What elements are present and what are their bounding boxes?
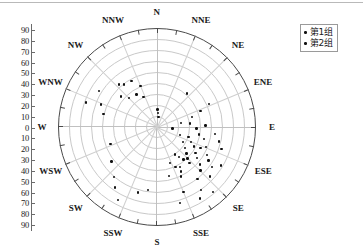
scatter-point: [174, 166, 176, 168]
compass-label-sw: SW: [69, 204, 83, 213]
radial-axis-tick-label: 20: [7, 102, 29, 111]
radial-axis-tick: [31, 63, 35, 64]
radial-axis-tick: [31, 30, 35, 31]
radial-axis-tick-label: 40: [7, 80, 29, 89]
plot-frame-top-border: [0, 2, 363, 3]
radial-axis-tick-label: 60: [7, 59, 29, 68]
scatter-point: [120, 95, 122, 97]
scatter-point: [185, 152, 187, 154]
scatter-point: [113, 176, 115, 178]
radial-axis-tick: [31, 41, 35, 42]
radial-axis-tick-label: 90: [7, 26, 29, 35]
scatter-point: [110, 160, 112, 162]
scatter-point: [130, 80, 132, 82]
radial-axis-tick: [31, 138, 35, 139]
scatter-point: [171, 127, 173, 129]
scatter-point: [174, 153, 176, 155]
legend-label: 第2组: [310, 39, 334, 48]
scatter-point: [203, 138, 205, 140]
scatter-point: [180, 170, 182, 172]
compass-label-e: E: [269, 123, 275, 132]
legend-marker-dot-icon: [304, 42, 307, 45]
polar-plot-area: [58, 28, 256, 226]
scatter-point: [196, 178, 198, 180]
scatter-point: [188, 162, 190, 164]
scatter-point: [207, 159, 209, 161]
compass-label-ene: ENE: [254, 78, 273, 87]
compass-label-se: SE: [233, 204, 244, 213]
scatter-point: [189, 122, 191, 124]
polar-rim-tick: [157, 28, 158, 33]
radial-axis-tick-label: 50: [7, 178, 29, 187]
compass-label-w: W: [38, 123, 47, 132]
legend-marker-dot-icon: [304, 31, 307, 34]
compass-label-nw: NW: [68, 41, 84, 50]
radial-axis-tick: [31, 214, 35, 215]
compass-label-ne: NE: [232, 41, 245, 50]
radial-axis-tick: [31, 160, 35, 161]
compass-label-s: S: [155, 238, 160, 247]
radial-axis-tick-label: 20: [7, 145, 29, 154]
radial-axis-tick-label: 30: [7, 91, 29, 100]
scatter-point: [180, 175, 182, 177]
compass-label-ssw: SSW: [103, 229, 122, 238]
scatter-point: [194, 152, 196, 154]
polar-grid-spoke: [156, 127, 157, 226]
scatter-point: [186, 157, 188, 159]
scatter-point: [195, 127, 197, 129]
compass-label-nne: NNE: [192, 16, 211, 25]
scatter-point: [182, 141, 184, 143]
radial-axis-tick: [31, 171, 35, 172]
radial-axis-tick-label: 60: [7, 189, 29, 198]
scatter-point: [114, 186, 116, 188]
radial-axis-tick-label: 90: [7, 221, 29, 230]
radial-axis-tick: [31, 149, 35, 150]
radial-axis-tick-label: 10: [7, 134, 29, 143]
polar-rim-tick: [156, 221, 157, 226]
polar-rim-tick: [58, 126, 63, 127]
compass-label-n: N: [154, 8, 161, 17]
scatter-point: [193, 145, 195, 147]
scatter-point: [128, 97, 130, 99]
radial-axis-tick: [31, 193, 35, 194]
radial-axis-tick-label: 50: [7, 69, 29, 78]
radial-axis-tick: [31, 106, 35, 107]
scatter-point: [204, 124, 206, 126]
radial-axis-tick: [31, 52, 35, 53]
radial-axis-tick: [31, 84, 35, 85]
radial-axis-tick: [31, 95, 35, 96]
radial-axis-tick: [31, 73, 35, 74]
scatter-point: [123, 83, 125, 85]
radial-axis-tick: [31, 182, 35, 183]
radial-axis-tick-label: 10: [7, 113, 29, 122]
radial-axis-tick: [31, 203, 35, 204]
scatter-point: [100, 103, 102, 105]
compass-label-nnw: NNW: [102, 16, 124, 25]
scatter-point: [180, 122, 182, 124]
compass-label-wsw: WSW: [39, 167, 62, 176]
legend-box: 第1组 第2组: [300, 24, 338, 52]
radial-axis-tick: [31, 128, 35, 129]
radial-axis-tick-label: 80: [7, 37, 29, 46]
radial-axis-tick-label: 70: [7, 48, 29, 57]
scatter-point: [109, 143, 111, 145]
scatter-point: [209, 175, 211, 177]
radial-axis-tick-label: 0: [7, 124, 29, 133]
radial-axis-tick-label: 80: [7, 210, 29, 219]
scatter-point: [199, 169, 201, 171]
legend-item[interactable]: 第1组: [304, 27, 333, 38]
scatter-point: [156, 108, 158, 110]
legend-item[interactable]: 第2组: [304, 38, 333, 49]
compass-label-sse: SSE: [193, 229, 209, 238]
radial-axis-tick: [31, 225, 35, 226]
compass-label-ese: ESE: [255, 167, 272, 176]
scatter-point: [102, 113, 104, 115]
polar-grid-spoke: [58, 126, 157, 127]
radial-axis-tick-label: 30: [7, 156, 29, 165]
scatter-point: [135, 93, 137, 95]
chart-root: 9080706050403020100102030405060708090 NN…: [0, 0, 363, 252]
radial-axis-tick-label: 70: [7, 199, 29, 208]
compass-label-wnw: WNW: [38, 78, 63, 87]
scatter-point: [182, 158, 184, 160]
radial-axis-tick-label: 40: [7, 167, 29, 176]
